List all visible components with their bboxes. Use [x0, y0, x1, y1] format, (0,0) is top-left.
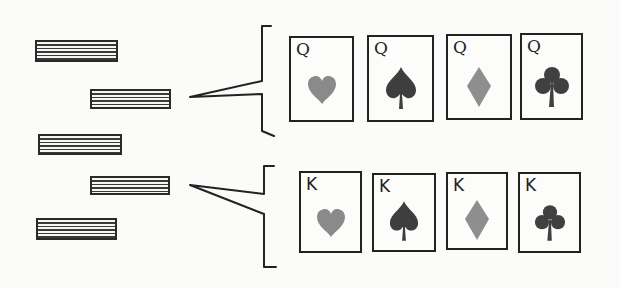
spade-icon — [384, 65, 418, 111]
card-rank: K — [453, 177, 464, 194]
card-queen-of-clubs: Q — [520, 33, 583, 120]
card-king-of-diamonds: K — [446, 172, 508, 250]
card-queen-of-hearts: Q — [289, 36, 354, 122]
heart-icon — [306, 74, 338, 106]
card-queen-of-spades: Q — [367, 35, 434, 122]
queens-bracket — [190, 26, 274, 136]
spade-icon — [388, 199, 420, 243]
card-rank: K — [306, 176, 317, 193]
kings-bracket — [190, 166, 276, 267]
club-icon — [534, 202, 566, 244]
card-king-of-hearts: K — [299, 171, 362, 253]
diamond-icon — [464, 198, 490, 242]
card-rank: Q — [374, 40, 388, 57]
diamond-icon — [466, 66, 492, 108]
card-rank: Q — [453, 39, 467, 56]
card-king-of-clubs: K — [518, 172, 581, 253]
card-rank: Q — [296, 41, 310, 58]
card-king-of-spades: K — [372, 173, 436, 252]
card-queen-of-diamonds: Q — [446, 34, 512, 120]
card-rank: K — [525, 177, 536, 194]
card-rank: K — [379, 178, 390, 195]
heart-icon — [314, 207, 348, 239]
card-rank: Q — [527, 38, 541, 55]
club-icon — [534, 65, 570, 109]
